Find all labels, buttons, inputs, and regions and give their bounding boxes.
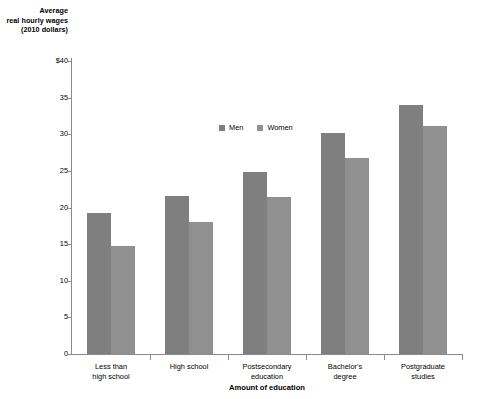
x-category-label-line-1: Bachelor's — [306, 362, 384, 372]
y-tick-label: 0 — [0, 349, 68, 359]
bar-group — [321, 61, 369, 354]
legend-swatch-men-icon — [219, 125, 225, 131]
x-category-label: Bachelor'sdegree — [306, 362, 384, 381]
legend-label-women: Women — [267, 124, 292, 132]
bar-group — [165, 61, 213, 354]
bar-men — [243, 172, 267, 354]
legend-item-men: Men — [219, 124, 243, 132]
x-tick-mark — [306, 355, 307, 360]
x-tick-mark — [384, 355, 385, 360]
bar-chart: Average real hourly wages (2010 dollars)… — [0, 0, 485, 399]
legend: Men Women — [219, 124, 293, 132]
y-axis-title: Average real hourly wages (2010 dollars) — [4, 6, 68, 35]
x-category-label: Postgraduatestudies — [384, 362, 462, 381]
bar-women — [189, 222, 213, 354]
x-category-label-line-1: Postsecondary — [228, 362, 306, 372]
y-tick-mark — [67, 354, 72, 355]
y-tick-label: 10 — [0, 276, 68, 286]
bar-group — [243, 61, 291, 354]
bar-men — [87, 213, 111, 354]
x-category-label-line-2: studies — [384, 372, 462, 382]
bar-group — [87, 61, 135, 354]
y-tick-label: 25 — [0, 166, 68, 176]
x-category-label: High school — [150, 362, 228, 372]
x-axis-title: Amount of education — [72, 383, 462, 392]
bar-men — [321, 133, 345, 354]
bar-men — [165, 196, 189, 354]
bar-women — [111, 246, 135, 354]
y-axis-title-line-2: real hourly wages — [4, 16, 68, 26]
legend-swatch-women-icon — [257, 125, 263, 131]
legend-item-women: Women — [257, 124, 292, 132]
x-axis-line — [71, 354, 463, 355]
x-tick-mark — [228, 355, 229, 360]
y-tick-label: 35 — [0, 93, 68, 103]
bar-women — [345, 158, 369, 354]
x-category-label-line-2: high school — [72, 372, 150, 382]
y-tick-label: 15 — [0, 239, 68, 249]
x-tick-mark — [462, 355, 463, 360]
x-category-label-line-1: Postgraduate — [384, 362, 462, 372]
bar-group — [399, 61, 447, 354]
x-category-label: Less thanhigh school — [72, 362, 150, 381]
x-category-label-line-2: education — [228, 372, 306, 382]
y-tick-label: $40 — [0, 56, 68, 66]
x-category-label-line-2: degree — [306, 372, 384, 382]
bar-men — [399, 105, 423, 354]
x-category-label-line-1: Less than — [72, 362, 150, 372]
legend-label-men: Men — [229, 124, 243, 132]
plot-area — [72, 61, 462, 354]
x-tick-mark — [150, 355, 151, 360]
x-category-label: Postsecondaryeducation — [228, 362, 306, 381]
y-tick-label: 20 — [0, 203, 68, 213]
y-axis-title-line-1: Average — [4, 6, 68, 16]
y-axis-title-line-3: (2010 dollars) — [4, 25, 68, 35]
bar-women — [267, 197, 291, 354]
y-tick-label: 30 — [0, 129, 68, 139]
bar-women — [423, 126, 447, 354]
y-tick-label: 5 — [0, 312, 68, 322]
x-category-label-line-1: High school — [150, 362, 228, 372]
